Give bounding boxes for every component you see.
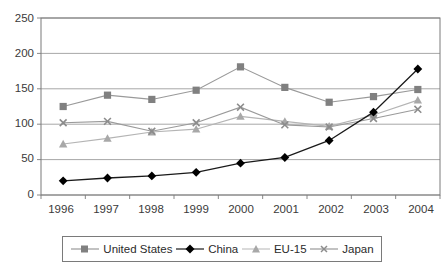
- series-china: [59, 65, 422, 186]
- data-point-marker: [148, 96, 155, 103]
- data-point-marker: [103, 174, 112, 183]
- x-tick-1998: 1998: [128, 203, 174, 215]
- data-point-marker: [60, 103, 67, 110]
- legend-marker-x-icon: [309, 243, 339, 255]
- x-tick-2004: 2004: [398, 203, 444, 215]
- legend-item-eu-15: EU-15: [241, 243, 307, 255]
- data-point-marker: [237, 63, 244, 70]
- data-point-marker: [59, 176, 68, 185]
- data-point-marker: [281, 84, 288, 91]
- x-tick-1999: 1999: [173, 203, 219, 215]
- data-point-marker: [236, 159, 245, 168]
- series-eu-15: [59, 96, 422, 147]
- y-tick-50: 50: [0, 152, 34, 164]
- legend-marker-square-icon: [70, 243, 100, 255]
- data-point-marker: [147, 171, 156, 180]
- data-point-marker: [414, 96, 422, 104]
- legend-marker-triangle-icon: [241, 243, 271, 255]
- legend-label-united-states: United States: [103, 243, 172, 255]
- y-tick-250: 250: [0, 12, 34, 24]
- y-tick-100: 100: [0, 117, 34, 129]
- x-tick-2000: 2000: [218, 203, 264, 215]
- x-tick-1997: 1997: [83, 203, 129, 215]
- data-point-marker: [193, 87, 200, 94]
- x-tick-1996: 1996: [38, 203, 84, 215]
- legend-label-eu-15: EU-15: [274, 243, 307, 255]
- legend-label-china: China: [208, 243, 238, 255]
- data-point-marker: [326, 99, 333, 106]
- legend-item-united-states: United States: [70, 243, 172, 255]
- data-point-marker: [325, 136, 334, 145]
- line-chart: 250 200 150 100 50 0 1996 1997 1998 1999…: [0, 0, 448, 271]
- legend-label-japan: Japan: [342, 243, 373, 255]
- x-tick-2002: 2002: [308, 203, 354, 215]
- data-point-marker: [414, 86, 421, 93]
- data-point-marker: [237, 104, 244, 111]
- series-united-states: [60, 63, 422, 110]
- legend-item-japan: Japan: [309, 243, 373, 255]
- plot-area: [0, 0, 448, 271]
- data-point-marker: [370, 93, 377, 100]
- x-tick-2001: 2001: [263, 203, 309, 215]
- y-tick-200: 200: [0, 47, 34, 59]
- y-tick-0: 0: [0, 188, 34, 200]
- chart-legend: United States China EU-15: [62, 236, 382, 262]
- data-point-marker: [192, 168, 201, 177]
- legend-marker-diamond-icon: [175, 243, 205, 255]
- data-point-marker: [236, 112, 244, 120]
- series-line: [63, 67, 418, 107]
- data-point-marker: [104, 92, 111, 99]
- data-point-marker: [280, 153, 289, 162]
- legend-item-china: China: [175, 243, 238, 255]
- y-tick-150: 150: [0, 82, 34, 94]
- x-tick-2003: 2003: [353, 203, 399, 215]
